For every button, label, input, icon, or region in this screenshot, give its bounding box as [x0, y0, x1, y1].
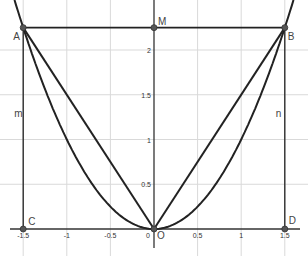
x-tick-label: 0 — [146, 232, 150, 239]
y-tick-label: 2 — [147, 47, 151, 54]
point-a-label: A — [13, 31, 20, 42]
point-m-label: M — [158, 16, 166, 27]
x-tick-label: 1 — [239, 232, 243, 239]
point-d-label: D — [289, 215, 296, 226]
axes — [10, 0, 300, 248]
point-b-label: B — [288, 31, 295, 42]
y-tick-label: 1 — [147, 137, 151, 144]
x-tick-label: -1.5 — [17, 232, 29, 239]
point-a — [20, 25, 26, 31]
x-tick-label: 1.5 — [280, 232, 290, 239]
point-c — [20, 226, 26, 232]
y-tick-label: 1.5 — [141, 92, 151, 99]
x-tick-label: 0.5 — [193, 232, 203, 239]
line-n-label: n — [276, 108, 282, 119]
segment-oa — [23, 28, 154, 229]
plot-canvas[interactable]: -1.5-1-0.50.511.500.511.52 mnABMCDO — [0, 0, 308, 256]
point-d — [282, 226, 288, 232]
point-o-label: O — [157, 230, 165, 241]
point-c-label: C — [28, 216, 35, 227]
point-m — [151, 25, 157, 31]
segment-ob — [154, 28, 285, 229]
y-tick-label: 0.5 — [141, 181, 151, 188]
x-tick-label: -1 — [64, 232, 70, 239]
x-tick-label: -0.5 — [104, 232, 116, 239]
line-m-label: m — [14, 108, 22, 119]
